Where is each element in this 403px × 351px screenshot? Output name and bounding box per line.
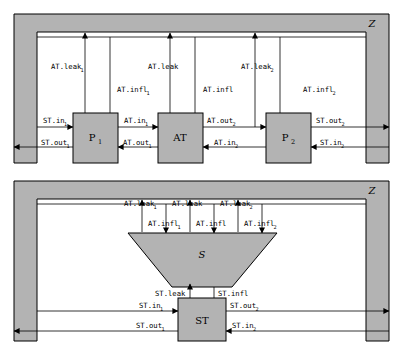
bottom-environment-label: Z: [368, 185, 377, 196]
label-b-st-out-1: ST.out 1: [136, 321, 165, 332]
label-at-in-2: AT.in 2: [214, 138, 238, 149]
svg-text:ST.out: ST.out: [316, 116, 342, 125]
block-p2: [266, 113, 311, 163]
svg-text:2: 2: [253, 326, 256, 332]
label-b-at-infl-2: AT.infl 2: [244, 219, 277, 230]
svg-text:AT.out: AT.out: [123, 138, 149, 147]
label-b-st-leak: ST.leak: [155, 289, 186, 298]
svg-text:ST.out: ST.out: [230, 301, 256, 310]
svg-text:1: 1: [154, 204, 157, 210]
svg-text:ST.in: ST.in: [139, 301, 161, 310]
svg-text:AT.leak: AT.leak: [51, 62, 82, 71]
label-at-infl-mid: AT.infl: [203, 85, 233, 94]
bottom-panel: Z S ST AT.leak 1 AT.leak: [14, 181, 389, 341]
label-b-at-leak-1: AT.leak 1: [124, 199, 157, 210]
svg-text:AT.infl: AT.infl: [117, 85, 147, 94]
label-at-out-2: AT.out 2: [207, 116, 236, 127]
block-s-label: S: [199, 249, 206, 260]
svg-text:AT.leak: AT.leak: [241, 62, 272, 71]
svg-text:ST.infl: ST.infl: [218, 289, 248, 298]
svg-text:AT.infl: AT.infl: [203, 85, 233, 94]
svg-text:AT.out: AT.out: [207, 116, 233, 125]
label-b-st-out-2: ST.out 2: [230, 301, 259, 312]
svg-text:2: 2: [235, 143, 238, 149]
label-at-in-1: AT.in 1: [124, 116, 148, 127]
svg-text:AT.in: AT.in: [214, 138, 236, 147]
label-at-leak-1: AT.leak 1: [51, 62, 84, 73]
svg-text:2: 2: [250, 204, 253, 210]
svg-text:1: 1: [160, 306, 163, 312]
svg-text:ST.in: ST.in: [232, 321, 254, 330]
block-s-trapezoid: [128, 233, 277, 287]
label-at-infl-2: AT.infl 2: [303, 85, 336, 96]
top-panel: Z P 1 AT P 2: [14, 14, 389, 163]
label-b-at-leak-2: AT.leak 2: [220, 199, 253, 210]
block-p2-label: P: [282, 132, 289, 143]
svg-text:2: 2: [271, 67, 274, 73]
svg-text:AT.leak: AT.leak: [124, 199, 155, 208]
block-p1-label: P: [89, 132, 96, 143]
label-at-leak-2: AT.leak 2: [241, 62, 274, 73]
svg-text:2: 2: [256, 306, 259, 312]
label-b-at-leak-mid: AT.leak: [172, 199, 203, 208]
svg-text:1: 1: [149, 143, 152, 149]
label-at-infl-1: AT.infl 1: [117, 85, 150, 96]
svg-text:2: 2: [333, 90, 336, 96]
label-b-st-infl: ST.infl: [218, 289, 248, 298]
svg-text:ST.out: ST.out: [41, 138, 67, 147]
svg-text:AT.infl: AT.infl: [148, 219, 178, 228]
block-p1: [73, 113, 118, 163]
label-st-out-2: ST.out 2: [316, 116, 345, 127]
svg-text:ST.leak: ST.leak: [155, 289, 186, 298]
label-b-st-in-1: ST.in 1: [139, 301, 163, 312]
svg-text:1: 1: [147, 90, 150, 96]
label-at-leak-mid: AT.leak: [148, 62, 179, 71]
svg-text:1: 1: [162, 326, 165, 332]
top-environment-label: Z: [368, 18, 377, 29]
svg-text:AT.infl: AT.infl: [244, 219, 274, 228]
svg-text:AT.infl: AT.infl: [196, 219, 226, 228]
label-b-at-infl-mid: AT.infl: [196, 219, 226, 228]
block-at-label: AT: [172, 132, 187, 143]
svg-text:1: 1: [145, 121, 148, 127]
label-st-in-1: ST.in 1: [43, 116, 67, 127]
svg-text:1: 1: [67, 143, 70, 149]
label-b-at-infl-1: AT.infl 1: [148, 219, 181, 230]
svg-text:AT.leak: AT.leak: [148, 62, 179, 71]
svg-text:2: 2: [342, 121, 345, 127]
block-p2-subscript: 2: [291, 138, 295, 146]
svg-text:2: 2: [341, 143, 344, 149]
svg-text:1: 1: [81, 67, 84, 73]
svg-text:AT.leak: AT.leak: [172, 199, 203, 208]
svg-text:ST.out: ST.out: [136, 321, 162, 330]
diagram-canvas: Z P 1 AT P 2: [0, 0, 403, 351]
block-st-label: ST: [195, 315, 209, 326]
svg-text:ST.in: ST.in: [320, 138, 342, 147]
svg-text:2: 2: [233, 121, 236, 127]
svg-text:AT.leak: AT.leak: [220, 199, 251, 208]
svg-text:2: 2: [274, 224, 277, 230]
svg-text:AT.in: AT.in: [124, 116, 146, 125]
svg-text:1: 1: [178, 224, 181, 230]
label-at-out-1: AT.out 1: [123, 138, 152, 149]
block-p1-subscript: 1: [98, 138, 102, 146]
diagram-root: Z P 1 AT P 2: [0, 0, 403, 351]
label-st-in-2: ST.in 2: [320, 138, 344, 149]
svg-text:AT.infl: AT.infl: [303, 85, 333, 94]
svg-text:1: 1: [64, 121, 67, 127]
label-st-out-1: ST.out 1: [41, 138, 70, 149]
label-b-st-in-2: ST.in 2: [232, 321, 256, 332]
svg-text:ST.in: ST.in: [43, 116, 65, 125]
